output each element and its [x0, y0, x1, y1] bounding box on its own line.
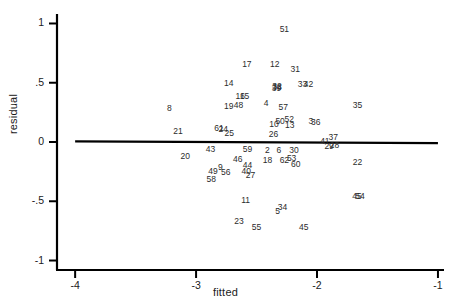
x-tick-label: -2 — [297, 279, 337, 291]
zero-residual-line-segment — [75, 141, 438, 143]
data-point-label: 20 — [180, 152, 189, 161]
data-point-label: 22 — [353, 157, 362, 166]
y-tick-label: 0 — [8, 135, 44, 147]
data-point-label: 36 — [311, 118, 320, 127]
data-point-label: 26 — [269, 130, 278, 139]
data-point-label: 19 — [224, 102, 233, 111]
data-point-label: 5 — [275, 206, 280, 215]
data-point-label: 12 — [270, 60, 279, 69]
x-tick-label: -3 — [176, 279, 216, 291]
data-point-label: 23 — [234, 217, 243, 226]
data-point-label: 56 — [221, 167, 230, 176]
data-point-label: 39 — [272, 84, 281, 93]
plot-canvas — [0, 0, 451, 307]
data-point-label: 2 — [265, 145, 270, 154]
data-point-label: 55 — [252, 222, 261, 231]
data-point-label: 58 — [206, 175, 215, 184]
y-tick-label: -.5 — [8, 194, 44, 206]
data-point-label: 43 — [206, 144, 215, 153]
data-point-label: 54 — [355, 192, 364, 201]
data-point-label: 27 — [246, 170, 255, 179]
data-point-label: 25 — [225, 129, 234, 138]
data-point-label: 10 — [269, 119, 278, 128]
data-point-label: 13 — [285, 121, 294, 130]
y-tick-label: .5 — [8, 76, 44, 88]
data-point-label: 8 — [167, 104, 172, 113]
zero-residual-line — [75, 141, 438, 143]
data-point-label: 45 — [299, 222, 308, 231]
data-point-label: 11 — [241, 196, 250, 205]
data-point-label: 6 — [277, 145, 282, 154]
scatter-plot-figure: residual fitted 1.50-.5-1 -4-3-2-1 51171… — [0, 0, 451, 307]
x-axis-ticks — [75, 270, 438, 278]
data-point-label: 46 — [233, 155, 242, 164]
data-point-label: 28 — [330, 141, 339, 150]
x-tick-label: -1 — [418, 279, 451, 291]
data-point-label: 59 — [243, 144, 252, 153]
data-point-label: 35 — [353, 100, 362, 109]
data-point-label: 60 — [291, 160, 300, 169]
x-tick-label: -4 — [55, 279, 95, 291]
data-point-label: 51 — [280, 25, 289, 34]
data-point-label: 31 — [291, 64, 300, 73]
data-point-label: 42 — [304, 80, 313, 89]
data-point-label: 48 — [234, 100, 243, 109]
data-point-label: 57 — [278, 103, 287, 112]
data-point-label: 62 — [280, 156, 289, 165]
data-point-label: 18 — [263, 156, 272, 165]
y-axis-ticks — [49, 23, 57, 260]
y-tick-label: 1 — [8, 16, 44, 28]
data-point-label: 14 — [224, 78, 233, 87]
y-tick-label: -1 — [8, 254, 44, 266]
data-point-label: 17 — [242, 60, 251, 69]
data-point-label: 4 — [264, 99, 269, 108]
data-point-label: 21 — [173, 126, 182, 135]
